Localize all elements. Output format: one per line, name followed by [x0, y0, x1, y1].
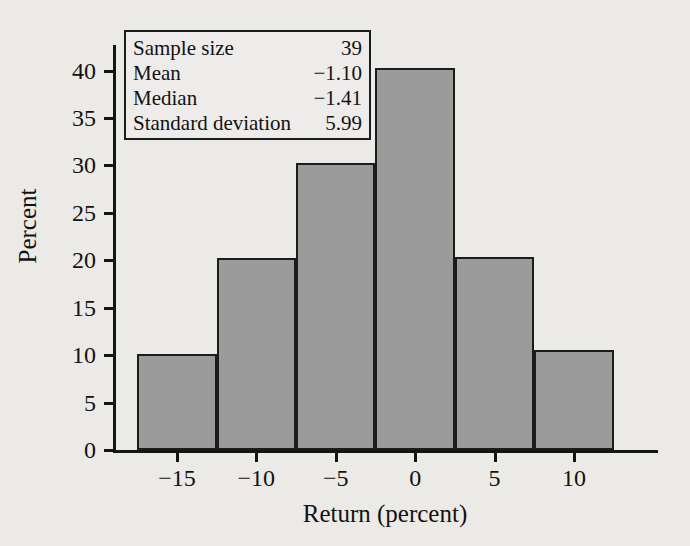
- x-axis-tick-label: 10: [534, 466, 614, 490]
- y-axis-tick-label: 25: [52, 201, 96, 225]
- statistics-row: Median−1.41: [133, 86, 362, 111]
- y-axis-tick: [104, 449, 113, 452]
- y-axis-tick-label: 40: [52, 59, 96, 83]
- y-axis-tick-label: 20: [52, 248, 96, 272]
- y-axis-tick: [104, 307, 113, 310]
- x-axis-tick: [573, 453, 576, 462]
- x-axis-tick: [494, 453, 497, 462]
- y-axis-tick-label: 30: [52, 153, 96, 177]
- x-axis-tick-label: −5: [296, 466, 376, 490]
- y-axis-title: Percent: [14, 136, 42, 316]
- statistics-label: Sample size: [133, 36, 234, 61]
- statistics-row: Sample size39: [133, 36, 362, 61]
- x-axis-tick: [255, 453, 258, 462]
- statistics-label: Mean: [133, 61, 181, 86]
- statistics-row: Standard deviation5.99: [133, 111, 362, 136]
- y-axis-tick: [104, 212, 113, 215]
- histogram-figure: 0510152025303540 −15−10−50510 Percent Re…: [0, 0, 690, 546]
- statistics-row: Mean−1.10: [133, 61, 362, 86]
- y-axis-line: [113, 45, 116, 453]
- statistics-value: −1.41: [305, 86, 362, 111]
- x-axis-line: [113, 450, 658, 453]
- x-axis-title: Return (percent): [115, 500, 655, 528]
- statistics-label: Median: [133, 86, 197, 111]
- histogram-bar: [296, 163, 375, 450]
- x-axis-tick: [414, 453, 417, 462]
- statistics-value: −1.10: [305, 61, 362, 86]
- y-axis-tick-label: 35: [52, 106, 96, 130]
- statistics-box: Sample size39Mean−1.10Median−1.41Standar…: [124, 30, 371, 140]
- x-axis-tick: [335, 453, 338, 462]
- statistics-value: 39: [333, 36, 362, 61]
- histogram-bar: [217, 258, 296, 450]
- histogram-bar: [455, 257, 534, 450]
- y-axis-tick: [104, 259, 113, 262]
- x-axis-tick-label: −15: [137, 466, 217, 490]
- x-axis-tick: [176, 453, 179, 462]
- y-axis-tick: [104, 402, 113, 405]
- y-axis-tick-label: 5: [52, 391, 96, 415]
- histogram-bar: [137, 354, 216, 450]
- y-axis-tick: [104, 354, 113, 357]
- y-axis-tick: [104, 164, 113, 167]
- x-axis-tick-label: −10: [216, 466, 296, 490]
- statistics-value: 5.99: [317, 111, 362, 136]
- y-axis-tick-label: 15: [52, 296, 96, 320]
- statistics-label: Standard deviation: [133, 111, 291, 136]
- x-axis-tick-label: 0: [375, 466, 455, 490]
- x-axis-tick-label: 5: [455, 466, 535, 490]
- histogram-bar: [534, 350, 613, 450]
- y-axis-tick-label: 0: [52, 438, 96, 462]
- y-axis-tick: [104, 117, 113, 120]
- y-axis-tick: [104, 70, 113, 73]
- y-axis-tick-label: 10: [52, 343, 96, 367]
- histogram-bar: [375, 68, 454, 450]
